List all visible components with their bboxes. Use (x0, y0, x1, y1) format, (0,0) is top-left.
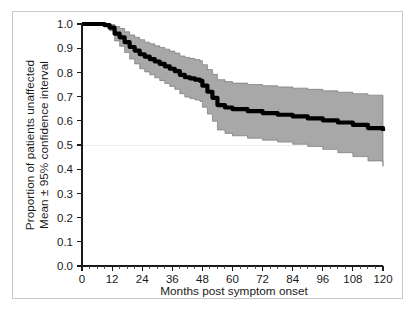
y-tick-label: 0.9 (57, 42, 73, 54)
y-axis-tick-labels: 0.00.10.20.30.40.50.60.70.80.91.0 (57, 18, 74, 272)
x-tick-label: 0 (79, 273, 85, 285)
x-tick-label: 120 (373, 273, 392, 285)
y-axis-title-line2: Mean ± 95% confidence interval (37, 61, 51, 229)
x-tick-label: 24 (136, 273, 149, 285)
y-tick-label: 0.1 (57, 236, 73, 248)
y-tick-label: 0.0 (57, 260, 73, 272)
y-tick-label: 0.8 (57, 67, 73, 79)
x-tick-label: 12 (106, 273, 119, 285)
x-axis-title: Months post symptom onset (160, 284, 308, 298)
y-tick-label: 0.7 (57, 91, 73, 103)
x-tick-label: 96 (316, 273, 329, 285)
y-axis-title-line1: Proportion of patients unaffected (23, 60, 37, 230)
x-tick-label: 108 (343, 273, 362, 285)
y-tick-label: 1.0 (57, 18, 73, 30)
survival-curve-chart: 01224364860728496108120 0.00.10.20.30.40… (0, 0, 414, 310)
y-tick-label: 0.4 (57, 163, 74, 175)
y-axis-ticks (77, 24, 82, 266)
y-tick-label: 0.6 (57, 115, 73, 127)
y-tick-label: 0.2 (57, 212, 73, 224)
y-tick-label: 0.5 (57, 139, 73, 151)
figure-container: 01224364860728496108120 0.00.10.20.30.40… (0, 0, 414, 310)
x-axis-ticks (82, 266, 383, 271)
y-tick-label: 0.3 (57, 188, 73, 200)
